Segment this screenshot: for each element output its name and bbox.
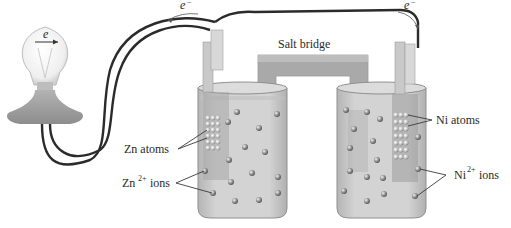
svg-text:e: e bbox=[404, 0, 410, 12]
svg-text:e: e bbox=[180, 0, 186, 12]
nickel-clip bbox=[405, 44, 415, 84]
svg-text:−: − bbox=[187, 0, 192, 7]
svg-text:ions: ions bbox=[476, 168, 499, 182]
bulb-base bbox=[7, 90, 83, 124]
zinc-electrode bbox=[203, 30, 229, 180]
svg-text:2+: 2+ bbox=[467, 165, 476, 174]
ni-atoms-label: Ni atoms bbox=[436, 113, 480, 127]
salt-bridge-label: Salt bridge bbox=[278, 37, 330, 51]
zinc-clip bbox=[211, 30, 223, 70]
ni-atom-lattice bbox=[394, 113, 409, 160]
svg-text:Ni: Ni bbox=[454, 168, 467, 182]
light-bulb: e bbox=[7, 27, 83, 124]
svg-text:−: − bbox=[411, 0, 416, 7]
ni-ions-label: Ni 2+ ions bbox=[454, 165, 499, 182]
zn-atoms-label: Zn atoms bbox=[124, 142, 169, 156]
svg-text:Zn: Zn bbox=[122, 176, 135, 190]
svg-text:2+: 2+ bbox=[138, 174, 147, 183]
electron-bulb-label: e bbox=[43, 27, 49, 41]
voltaic-cell-diagram: e e − e − Salt bridge bbox=[0, 0, 511, 228]
svg-text:ions: ions bbox=[147, 176, 170, 190]
zn-ions-label: Zn 2+ ions bbox=[122, 174, 170, 190]
